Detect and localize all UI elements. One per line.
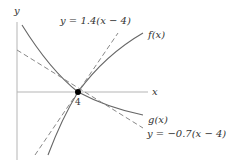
tangent-lines-diagram: y x 4 y = 1.4(x − 4) y = −0.7(x − 4) f(x… — [0, 0, 236, 162]
diagram-canvas: y x 4 y = 1.4(x − 4) y = −0.7(x − 4) f(x… — [0, 0, 236, 162]
curve-g — [22, 25, 143, 115]
curve-f-label: f(x) — [147, 29, 165, 40]
tangent-positive-label: y = 1.4(x − 4) — [59, 15, 131, 26]
tangent-line-negative — [17, 50, 143, 128]
tangent-negative-label: y = −0.7(x − 4) — [146, 128, 226, 139]
tangency-point — [75, 89, 81, 95]
point-x-label: 4 — [75, 97, 81, 107]
curve-g-label: g(x) — [148, 114, 168, 125]
curve-f — [48, 33, 143, 155]
x-axis-label: x — [152, 86, 158, 97]
y-axis-label: y — [13, 5, 20, 16]
